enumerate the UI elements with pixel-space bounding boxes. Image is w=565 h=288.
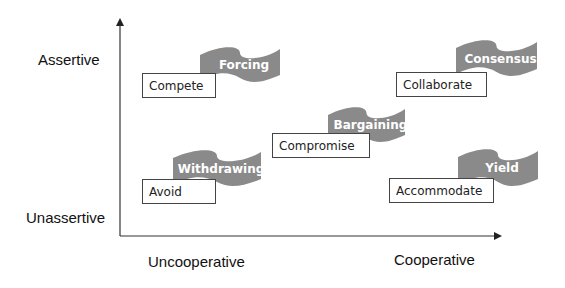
avoid-box: Avoid	[142, 179, 216, 204]
conflict-styles-diagram: ForcingConsensusBargainingWithdrawingYie…	[0, 0, 565, 288]
y-axis-bottom-label: Unassertive	[26, 209, 105, 226]
compete-flag-label: Forcing	[219, 58, 269, 72]
x-axis-left-label: Uncooperative	[148, 253, 245, 270]
accommodate-flag-label: Yield	[484, 161, 519, 175]
accommodate-box: Accommodate	[389, 178, 494, 203]
x-axis-right-label: Cooperative	[394, 251, 475, 268]
collaborate-box: Collaborate	[396, 72, 487, 97]
y-axis-top-label: Assertive	[38, 51, 100, 68]
avoid-flag-label: Withdrawing	[178, 162, 265, 176]
compromise-box: Compromise	[272, 133, 370, 158]
compromise-flag-label: Bargaining	[334, 118, 408, 132]
compete-box: Compete	[142, 73, 216, 98]
collaborate-flag-label: Consensus	[464, 52, 536, 66]
